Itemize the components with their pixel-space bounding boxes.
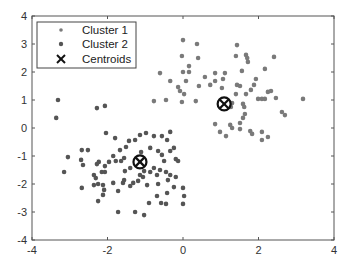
cluster-2-point <box>155 194 160 199</box>
cluster-2-point <box>156 182 161 187</box>
cluster-2-point <box>103 164 108 169</box>
cluster-2-point <box>92 183 97 188</box>
y-tick-label: -2 <box>17 178 27 190</box>
cluster-2-point <box>116 189 121 194</box>
cluster-1-point <box>178 89 183 94</box>
y-tick-label: 2 <box>21 66 27 78</box>
cluster-1-point <box>195 42 200 47</box>
cluster-2-point <box>164 202 169 207</box>
cluster-2-point <box>160 134 165 139</box>
cluster-1-point <box>263 67 268 72</box>
cluster-1-point <box>208 83 213 88</box>
cluster-2-point <box>79 158 84 163</box>
y-tick-label: 1 <box>21 94 27 106</box>
cluster-2-point <box>95 162 100 167</box>
cluster-1-point <box>246 60 251 65</box>
cluster-2-point <box>144 131 149 136</box>
y-tick-label: 0 <box>21 122 27 134</box>
cluster-2-point <box>148 170 153 175</box>
cluster-2-point <box>111 181 116 186</box>
cluster-2-point <box>121 181 126 186</box>
cluster-2-point <box>114 159 119 164</box>
cluster-1-point <box>250 132 255 137</box>
y-tick-label: 3 <box>21 38 27 50</box>
cluster-1-point <box>272 55 277 60</box>
legend-cluster-1-marker-icon <box>59 28 63 32</box>
x-tick-label: -4 <box>27 244 37 256</box>
cluster-1-point <box>234 54 239 59</box>
x-tick-label: 4 <box>331 244 337 256</box>
cluster-1-point <box>223 71 228 76</box>
cluster-1-point <box>283 113 288 118</box>
cluster-2-point <box>102 188 107 193</box>
cluster-2-point <box>104 131 109 136</box>
cluster-1-point <box>228 123 233 128</box>
cluster-2-point <box>96 199 101 204</box>
cluster-1-point <box>187 64 192 69</box>
cluster-2-point <box>139 150 144 155</box>
x-tick-label: -2 <box>103 244 113 256</box>
cluster-1-point <box>164 98 169 103</box>
cluster-2-point <box>136 179 141 184</box>
scatter-chart: -4-2024-4-3-2-101234 Cluster 1 Cluster 2… <box>0 0 353 269</box>
cluster-1-point <box>260 138 265 143</box>
cluster-2-point <box>172 146 177 151</box>
cluster-2-point <box>147 201 152 206</box>
cluster-2-point <box>133 138 138 143</box>
cluster-2-point <box>148 146 153 151</box>
cluster-1-point <box>245 56 250 61</box>
cluster-2-point <box>94 176 99 181</box>
cluster-1-point <box>213 79 218 84</box>
cluster-1-point <box>213 122 218 127</box>
cluster-2-point <box>96 182 101 187</box>
cluster-1-point <box>238 127 243 132</box>
cluster-2-point <box>101 183 106 188</box>
cluster-2-point <box>142 213 147 218</box>
cluster-2-point <box>122 156 127 161</box>
cluster-2-point <box>164 170 169 175</box>
cluster-2-point <box>95 106 100 111</box>
x-tick-label: 0 <box>180 244 186 256</box>
cluster-2-point <box>138 133 143 138</box>
cluster-2-point <box>101 193 106 198</box>
cluster-2-point <box>141 175 146 180</box>
legend: Cluster 1 Cluster 2 Centroids <box>37 22 136 68</box>
cluster-2-point <box>128 166 133 171</box>
legend-centroids-label: Centroids <box>82 53 131 65</box>
cluster-1-point <box>269 89 274 94</box>
cluster-1-point <box>301 97 306 102</box>
cluster-2-point <box>123 169 128 174</box>
cluster-2-point <box>160 153 165 158</box>
cluster-2-point <box>113 136 118 141</box>
cluster-2-point <box>80 148 85 153</box>
cluster-1-point <box>213 71 218 76</box>
cluster-2-point <box>176 159 181 164</box>
cluster-1-point <box>220 86 225 91</box>
cluster-1-point <box>244 92 249 97</box>
cluster-2-point <box>159 201 164 206</box>
cluster-2-point <box>62 170 67 175</box>
cluster-2-point <box>162 159 167 164</box>
cluster-2-point <box>156 149 161 154</box>
cluster-1-point <box>243 112 248 117</box>
legend-cluster-1-label: Cluster 1 <box>82 24 128 36</box>
cluster-1-point <box>187 70 192 75</box>
cluster-1-point <box>181 70 186 75</box>
cluster-1-point <box>241 116 246 121</box>
cluster-2-point <box>124 145 129 150</box>
cluster-1-point <box>176 85 181 90</box>
cluster-1-point <box>254 77 259 82</box>
cluster-2-point <box>127 139 132 144</box>
cluster-2-point <box>107 160 112 165</box>
cluster-1-point <box>252 83 257 88</box>
cluster-2-point <box>133 210 138 215</box>
cluster-2-point <box>128 184 133 189</box>
cluster-2-point <box>165 191 170 196</box>
cluster-1-point <box>238 84 243 89</box>
legend-cluster-2-label: Cluster 2 <box>82 38 128 50</box>
cluster-1-point <box>181 38 186 43</box>
cluster-1-point <box>168 79 173 84</box>
cluster-1-point <box>274 96 279 101</box>
cluster-2-point <box>118 148 123 153</box>
cluster-1-point <box>203 75 208 80</box>
